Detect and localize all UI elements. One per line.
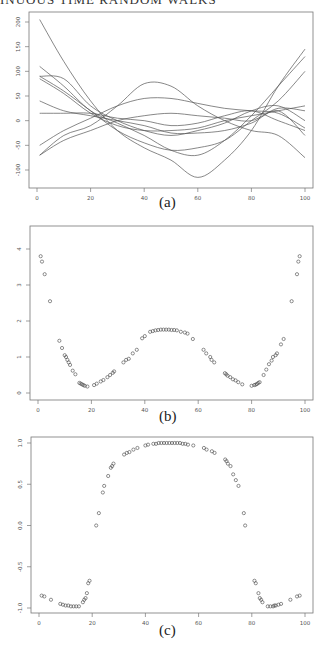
data-point [242, 512, 245, 515]
data-point [101, 491, 104, 494]
data-point [232, 473, 235, 476]
data-point [213, 451, 216, 454]
data-point [229, 465, 232, 468]
y-tick-label: 200 [15, 16, 21, 27]
x-tick-label: 80 [248, 620, 255, 626]
data-point [122, 361, 125, 364]
x-tick-label: 60 [195, 407, 202, 413]
y-tick-label: 150 [15, 41, 21, 52]
x-tick-label: 0 [36, 407, 40, 413]
y-tick-label: 1.0 [17, 438, 23, 447]
x-tick-label: 100 [300, 620, 311, 626]
data-point [205, 352, 208, 355]
data-point [131, 352, 134, 355]
x-tick-label: 40 [142, 620, 149, 626]
x-tick-label: 60 [195, 620, 202, 626]
data-point [210, 358, 213, 361]
data-point [267, 363, 270, 366]
data-point [58, 339, 61, 342]
x-tick-label: 100 [300, 195, 311, 200]
y-tick-label: 4 [16, 247, 22, 251]
x-tick-label: 40 [141, 195, 148, 200]
caption-b: (b) [159, 408, 177, 425]
data-point [85, 592, 88, 595]
y-tick-label: 0 [16, 391, 22, 395]
y-tick-label: -0.5 [17, 561, 23, 572]
x-tick-label: 20 [87, 195, 94, 200]
data-point [265, 368, 268, 371]
data-point [97, 512, 100, 515]
data-point [135, 348, 138, 351]
caption-c: (c) [159, 622, 176, 639]
random-walk-path [40, 82, 305, 158]
x-tick-label: 80 [248, 407, 255, 413]
y-tick-label: 0 [15, 118, 21, 122]
data-point [262, 373, 265, 376]
data-point [43, 273, 46, 276]
random-walk-path [40, 71, 305, 150]
data-point [205, 448, 208, 451]
caption-a: (a) [159, 194, 176, 211]
plot-frame [29, 12, 313, 188]
data-point [295, 273, 298, 276]
data-point [237, 484, 240, 487]
x-tick-label: 20 [88, 407, 95, 413]
data-point [257, 592, 260, 595]
data-point [192, 444, 195, 447]
data-point [132, 448, 135, 451]
plot-frame [30, 226, 313, 400]
data-point [213, 361, 216, 364]
data-point [270, 359, 273, 362]
data-point [282, 337, 285, 340]
data-point [244, 524, 247, 527]
y-tick-label: 2 [16, 319, 22, 323]
y-tick-label: 3 [16, 283, 22, 287]
x-tick-label: 0 [35, 195, 39, 200]
data-point [191, 337, 194, 340]
data-point [74, 373, 77, 376]
data-point [289, 598, 292, 601]
data-point [298, 255, 301, 258]
data-point [103, 484, 106, 487]
random-walk-path [40, 57, 305, 156]
data-point [107, 474, 110, 477]
y-tick-label: -100 [15, 163, 21, 176]
data-point [297, 260, 300, 263]
x-tick-label: 20 [89, 620, 96, 626]
data-point [234, 479, 237, 482]
data-point [71, 369, 74, 372]
data-point [279, 343, 282, 346]
data-point [136, 446, 139, 449]
chart-panel-b: 02040608010001234 [0, 218, 334, 418]
data-point [48, 300, 51, 303]
random-walk-path [40, 98, 305, 146]
y-tick-label: -1.0 [17, 602, 23, 613]
x-tick-label: 40 [141, 407, 148, 413]
plot-frame [31, 437, 313, 613]
data-point [202, 348, 205, 351]
y-tick-label: 1 [16, 355, 22, 359]
x-tick-label: 60 [194, 195, 201, 200]
data-point [102, 378, 105, 381]
data-point [49, 598, 52, 601]
data-point [241, 383, 244, 386]
x-tick-label: 100 [300, 407, 311, 413]
y-tick-label: 0.0 [17, 521, 23, 530]
x-tick-label: 80 [248, 195, 255, 200]
data-point [60, 346, 63, 349]
x-tick-label: 0 [37, 620, 41, 626]
data-point [290, 300, 293, 303]
y-tick-label: 0.5 [17, 479, 23, 488]
y-tick-label: 50 [15, 92, 21, 99]
chart-panel-c: 020406080100-1.0-0.50.00.51.0 [0, 430, 334, 640]
data-point [95, 524, 98, 527]
data-point [143, 335, 146, 338]
y-tick-label: -50 [15, 140, 21, 149]
data-point [40, 260, 43, 263]
data-point [68, 363, 71, 366]
y-tick-label: 100 [15, 66, 21, 77]
data-point [179, 330, 182, 333]
data-point [39, 255, 42, 258]
chart-panel-a: 020406080100-100-50050100150200 [0, 0, 334, 200]
data-point [95, 382, 98, 385]
